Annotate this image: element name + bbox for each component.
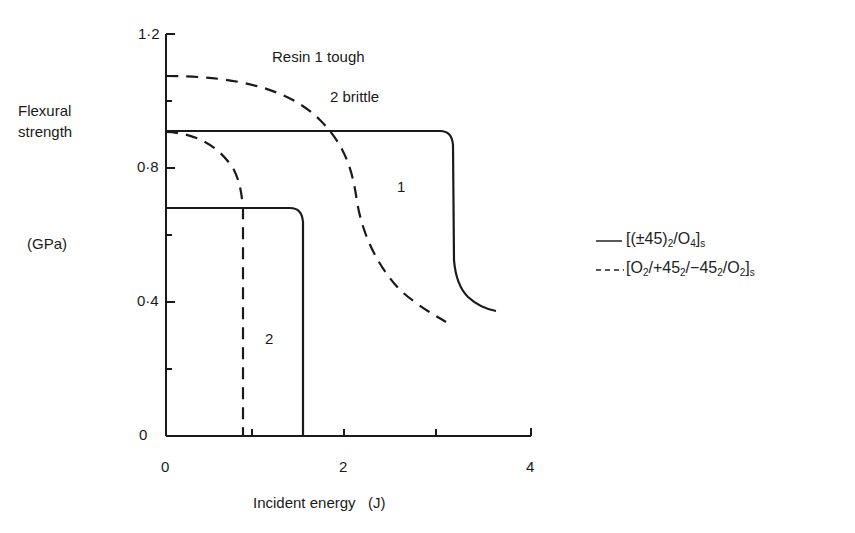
- y-tick-1.2: 1·2: [138, 25, 160, 42]
- legend-dashed-text: [O2/+452/−452/O2]s: [626, 259, 755, 276]
- x-tick-0: 0: [161, 458, 169, 475]
- x-axis-label: Incident energy (J): [253, 494, 386, 511]
- annotation-resin2: 2 brittle: [330, 88, 379, 105]
- curve-label-1: 1: [397, 178, 405, 195]
- series-resin2-dashed: [166, 132, 243, 436]
- x-tick-2: 2: [339, 458, 347, 475]
- legend-solid-text: [(±45)2/O4]s: [626, 230, 705, 247]
- annotation-resin1: Resin 1 tough: [272, 48, 365, 65]
- series-resin2-solid: [166, 208, 303, 436]
- series-resin1-solid: [166, 131, 496, 311]
- y-tick-0.4: 0·4: [137, 292, 159, 309]
- legend-dashed: [O2/+452/−452/O2]s: [626, 259, 755, 278]
- curve-label-2: 2: [265, 330, 273, 347]
- series-resin1-dashed: [166, 76, 446, 322]
- y-axis-label-units: (GPa): [27, 235, 67, 252]
- y-tick-0.8: 0·8: [137, 158, 159, 175]
- x-tick-4: 4: [526, 458, 534, 475]
- y-tick-0: 0: [139, 426, 147, 443]
- y-axis-label-line2: strength: [18, 123, 72, 140]
- y-axis-label-line1: Flexural: [18, 102, 71, 119]
- legend-solid: [(±45)2/O4]s: [626, 230, 705, 249]
